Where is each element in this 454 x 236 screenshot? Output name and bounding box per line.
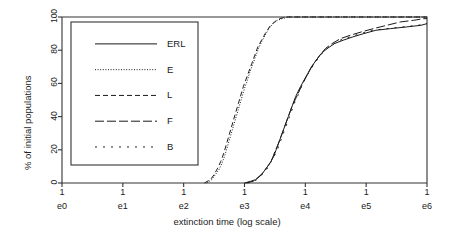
- x-tick-label: e6: [416, 201, 438, 211]
- x-tick-label: e4: [294, 201, 316, 211]
- legend-label-B: B: [167, 141, 173, 152]
- x-tick-mantissa: 1: [295, 187, 315, 197]
- x-tick-mantissa: 1: [174, 187, 194, 197]
- x-tick-label: e3: [234, 201, 256, 211]
- x-tick-label: e0: [51, 201, 73, 211]
- legend-label-ERL: ERL: [167, 38, 185, 49]
- series-line-B: [248, 24, 427, 183]
- legend-label-F: F: [167, 115, 173, 126]
- legend-label-L: L: [167, 89, 172, 100]
- x-tick-mantissa: 1: [356, 187, 376, 197]
- x-tick-mantissa: 1: [417, 187, 437, 197]
- x-tick-mantissa: 1: [52, 187, 72, 197]
- x-tick-label: e2: [173, 201, 195, 211]
- y-tick-label: 100: [49, 0, 59, 42]
- x-tick-label: e1: [112, 201, 134, 211]
- series-line-L: [204, 17, 427, 183]
- extinction-time-cdf-chart: % of initial populations extinction time…: [0, 0, 454, 236]
- legend-label-E: E: [167, 64, 173, 75]
- x-tick-mantissa: 1: [113, 187, 133, 197]
- x-tick-label: e5: [355, 201, 377, 211]
- x-tick-mantissa: 1: [235, 187, 255, 197]
